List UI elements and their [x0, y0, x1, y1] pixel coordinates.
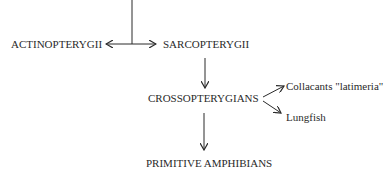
- arrow-to-lungfish: [263, 101, 281, 113]
- arrow-to-collacants: [263, 86, 284, 97]
- node-sarcopterygii: SARCOPTERYGII: [163, 39, 249, 50]
- node-collacants: Collacants "latimeria": [286, 81, 383, 92]
- node-crossopterygians: CROSSOPTERYGIANS: [148, 93, 259, 104]
- node-primitive-amphibians: PRIMITIVE AMPHIBIANS: [146, 158, 272, 169]
- node-lungfish: Lungfish: [286, 112, 326, 123]
- node-actinopterygii: ACTINOPTERYGII: [11, 39, 102, 50]
- phylogeny-diagram: ACTINOPTERYGII SARCOPTERYGII CROSSOPTERY…: [0, 0, 392, 179]
